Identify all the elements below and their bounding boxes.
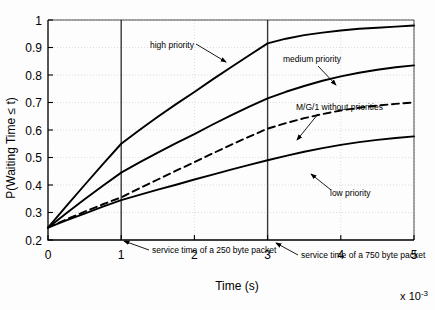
y-tick-label: 1 — [35, 14, 42, 28]
annotation-label-mg1-without-priorities: M/G/1 without priorities — [296, 102, 383, 112]
y-tick-label: 0.8 — [25, 69, 42, 83]
annotation-arrow-vline-750 — [276, 243, 298, 255]
annotation-label-medium-priority: medium priority — [283, 54, 342, 64]
annotation-label-vline-750: service time of a 750 byte packet — [301, 250, 426, 260]
y-tick-label: 0.3 — [25, 206, 42, 220]
y-tick-label: 0.7 — [25, 96, 42, 110]
chart-svg: 0.20.30.40.50.60.70.80.91012345 high pri… — [0, 0, 435, 310]
y-axis-label: P(Waiting Time ≤ t) — [4, 97, 18, 199]
x-axis-label: Time (s) — [215, 279, 259, 293]
tick-marks-and-labels: 0.20.30.40.50.60.70.80.91012345 — [25, 14, 417, 263]
x-axis-multiplier: x 10-3 — [400, 289, 428, 303]
annotation-arrow-low-priority — [311, 174, 331, 190]
annotation-label-low-priority: low priority — [330, 188, 371, 198]
y-tick-label: 0.9 — [25, 41, 42, 55]
y-tick-label: 0.6 — [25, 124, 42, 138]
annotation-label-vline-250: service time of a 250 byte packet — [152, 245, 277, 255]
curve-low-priority — [48, 136, 414, 227]
annotation-arrow-vline-250 — [124, 241, 149, 250]
y-tick-label: 0.5 — [25, 151, 42, 165]
x-tick-label: 0 — [45, 248, 52, 262]
x-tick-label: 1 — [118, 248, 125, 262]
annotation-arrow-high-priority — [196, 44, 226, 62]
y-tick-label: 0.4 — [25, 179, 42, 193]
annotation-label-high-priority: high priority — [150, 40, 195, 50]
figure-canvas: 0.20.30.40.50.60.70.80.91012345 high pri… — [0, 0, 435, 310]
annotations-layer: high prioritymedium priorityM/G/1 withou… — [124, 40, 426, 260]
y-tick-label: 0.2 — [25, 234, 42, 248]
